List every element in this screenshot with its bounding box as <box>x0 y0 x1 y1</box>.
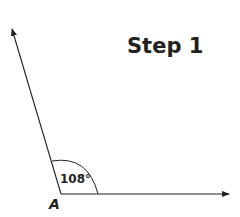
ray-upper <box>12 29 61 194</box>
vertex-label: A <box>49 196 60 212</box>
angle-diagram <box>0 0 240 217</box>
step-title: Step 1 <box>127 34 203 58</box>
angle-measure-label: 108° <box>60 172 91 186</box>
